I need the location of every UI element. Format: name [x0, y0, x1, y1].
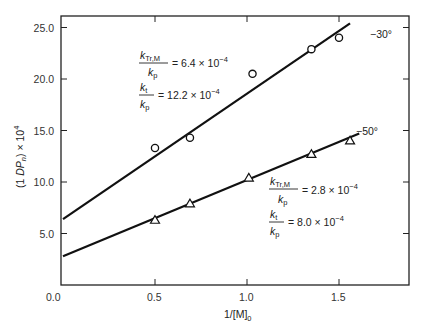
svg-text:kp: kp [140, 98, 149, 112]
x-axis-label: 1/[M]0 [224, 308, 252, 323]
x-tick-label: 1.5 [331, 291, 346, 303]
svg-text:kTr,M: kTr,M [270, 175, 290, 189]
svg-text:kt: kt [270, 208, 278, 222]
circle-marker [151, 144, 158, 151]
svg-text:kp: kp [278, 193, 287, 207]
y-tick-label: 15.0 [34, 125, 55, 137]
circle-marker [249, 70, 256, 77]
circle-marker [308, 46, 315, 53]
svg-text:kp: kp [148, 66, 157, 80]
y-tick-label: 20.0 [34, 73, 55, 85]
series-label-minus50: −50° [356, 125, 378, 137]
svg-text:kTr,M: kTr,M [140, 49, 160, 63]
circle-marker [186, 134, 193, 141]
x-tick-label: 0.5 [147, 291, 162, 303]
svg-text:kp: kp [270, 225, 279, 239]
x-tick-label: 0.0 [46, 291, 61, 303]
svg-text:= 8.0 × 10−4: = 8.0 × 10−4 [288, 214, 344, 228]
series-label-minus30: −30° [370, 28, 392, 40]
svg-text:= 6.4 × 10−4: = 6.4 × 10−4 [172, 55, 228, 69]
svg-text:= 12.2 × 10−4: = 12.2 × 10−4 [158, 87, 220, 101]
svg-text:kt: kt [140, 81, 148, 95]
axes-frame [61, 16, 409, 285]
annotation-minus30: kTr,M kp = 6.4 × 10−4 kt kp = 12.2 × 10−… [139, 49, 228, 112]
circle-marker [335, 34, 342, 41]
y-axis-label: (1 DPn) × 104 [12, 126, 28, 188]
annotation-minus50: kTr,M kp = 2.8 × 10−4 kt kp = 8.0 × 10−4 [269, 175, 358, 239]
chart: 0.00.51.01.55.010.015.020.025.0 −30° −50… [0, 0, 421, 332]
y-tick-label: 25.0 [34, 22, 55, 34]
svg-text:= 2.8 × 10−4: = 2.8 × 10−4 [302, 182, 358, 196]
triangle-marker [346, 136, 355, 144]
y-tick-label: 10.0 [34, 176, 55, 188]
y-tick-label: 5.0 [39, 228, 54, 240]
x-tick-label: 1.0 [239, 291, 254, 303]
